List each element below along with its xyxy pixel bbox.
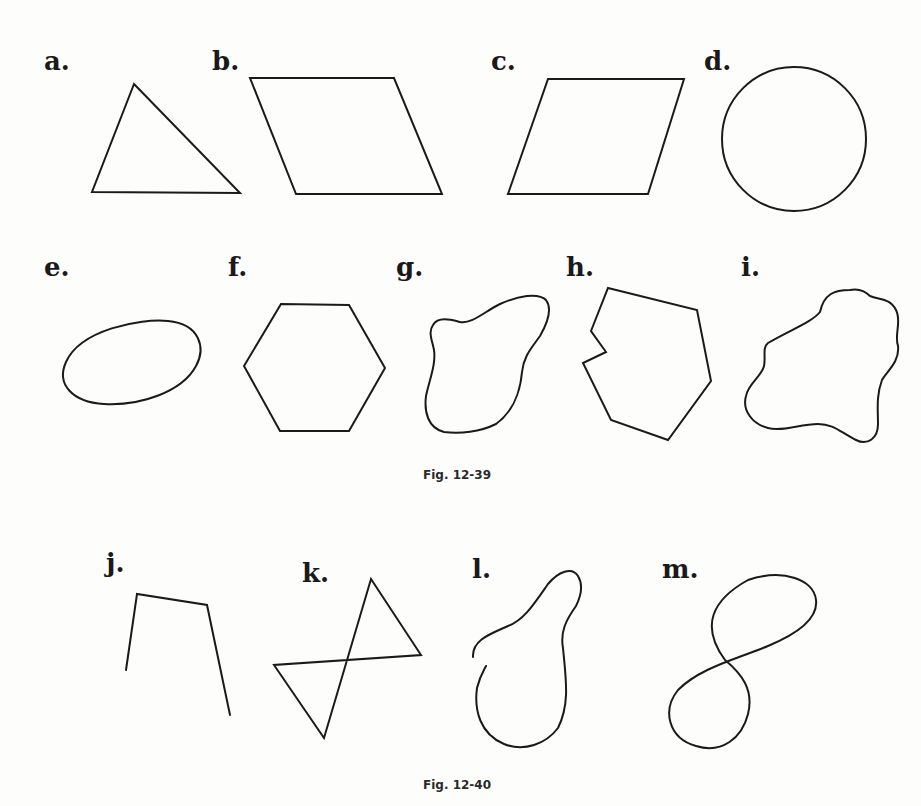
- shape-k-bowtie: [274, 579, 421, 738]
- shape-label-c: c.: [491, 48, 516, 74]
- shape-label-m: m.: [662, 556, 699, 582]
- shape-h-concave-polygon: [583, 288, 711, 440]
- shape-label-e: e.: [44, 254, 70, 280]
- shape-e-oval: [63, 321, 200, 405]
- figure-caption-12-39: Fig. 12-39: [423, 468, 491, 482]
- shape-label-d: d.: [704, 48, 731, 74]
- shape-label-f: f.: [228, 254, 247, 280]
- shape-c-parallelogram: [508, 79, 684, 194]
- shape-d-circle: [722, 67, 866, 211]
- shape-j-open-path: [126, 594, 230, 715]
- shape-a-triangle: [92, 84, 240, 193]
- shape-label-l: l.: [472, 556, 491, 582]
- shape-l-open-curve: [473, 571, 581, 747]
- shape-i-blob: [745, 289, 898, 442]
- shape-label-h: h.: [566, 254, 594, 280]
- shape-label-j: j.: [106, 550, 124, 576]
- figure-caption-12-40: Fig. 12-40: [423, 778, 491, 792]
- shape-label-a: a.: [44, 48, 70, 74]
- figure-canvas: [0, 0, 921, 806]
- shape-label-b: b.: [212, 48, 239, 74]
- shape-b-parallelogram: [250, 78, 442, 194]
- shape-f-hexagon: [244, 304, 385, 431]
- shape-label-g: g.: [396, 254, 423, 280]
- shape-label-i: i.: [741, 254, 760, 280]
- shape-label-k: k.: [302, 560, 329, 586]
- shape-g-blob: [426, 296, 549, 433]
- shape-m-figure-eight: [669, 575, 816, 748]
